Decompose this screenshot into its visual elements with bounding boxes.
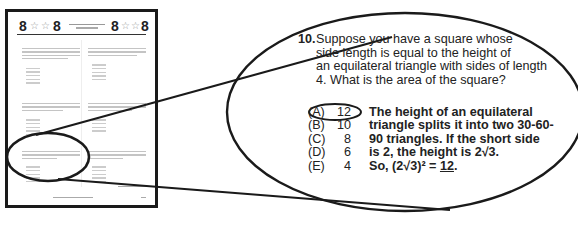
question-line: 4. What is the area of the square? xyxy=(316,74,578,88)
choice-letter: (D) xyxy=(308,146,325,159)
choice-value: 12 xyxy=(334,106,351,119)
pointer-line-lower xyxy=(58,179,450,210)
choice-value: 8 xyxy=(334,133,351,146)
explanation-final-line: So, (2√3)² = 12. xyxy=(369,160,554,173)
choice-value: 10 xyxy=(334,119,351,132)
explanation-line: is 2, the height is 2√3. xyxy=(369,146,554,159)
choice-letter: (C) xyxy=(308,133,325,146)
choice-value: 4 xyxy=(334,160,351,173)
final-prefix: So, (2√3)² = xyxy=(369,159,440,173)
small-highlight-ellipse xyxy=(7,133,89,181)
question-line: side length is equal to the height of xyxy=(316,47,578,61)
final-answer: 12 xyxy=(440,159,454,173)
choice-letter: (E) xyxy=(308,160,325,173)
explanation-line: The height of an equilateral xyxy=(369,106,554,119)
final-suffix: . xyxy=(454,159,458,173)
explanation-line: triangle splits it into two 30-60- xyxy=(369,119,554,132)
question-line: an equilateral triangle with sides of le… xyxy=(316,60,578,74)
choice-value: 6 xyxy=(334,146,351,159)
choice-letter: (A) xyxy=(308,106,325,119)
question-text: Suppose you have a square whose side len… xyxy=(316,33,578,87)
choice-letter: (B) xyxy=(308,119,325,132)
explanation-line: 90 triangles. If the short side xyxy=(369,133,554,146)
question-line: Suppose you have a square whose xyxy=(316,33,578,47)
question-number: 10. xyxy=(298,33,316,47)
answer-explanation: The height of an equilateral triangle sp… xyxy=(369,106,554,173)
